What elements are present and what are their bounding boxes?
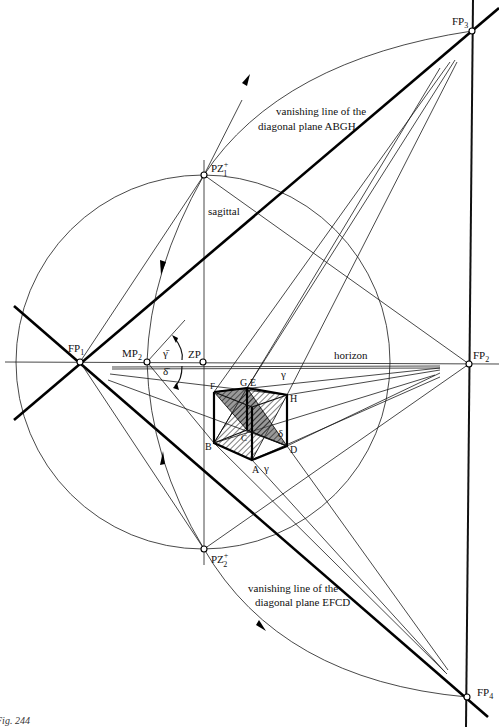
label-vertex-c: C <box>241 433 247 443</box>
arrow-up-icon <box>160 451 165 465</box>
fan-fp2-6 <box>287 373 440 446</box>
label-zp: ZP <box>188 348 201 360</box>
figure-caption: Fig. 244 <box>0 715 30 726</box>
cube-to-fp4-3 <box>214 443 447 674</box>
label-vertex-d: D <box>290 444 297 455</box>
arc-fp1-to-fp3 <box>204 31 472 175</box>
point-fp3 <box>469 28 475 34</box>
point-pz1 <box>201 172 207 178</box>
fan-fp2-2 <box>112 368 440 369</box>
label-vertex-b: B <box>205 441 212 452</box>
vanishing-line-efcd <box>14 306 488 717</box>
point-fp2 <box>466 361 472 367</box>
label-gamma-top: γ <box>280 368 286 380</box>
label-vertex-g: G <box>240 377 247 388</box>
label-gamma-bottom: γ <box>263 462 269 474</box>
arc-pz1-to-mp2 <box>147 175 204 362</box>
pz1-to-fp1 <box>80 175 204 362</box>
annotation-efcd-line2: diagonal plane EFCD <box>255 596 350 608</box>
cube-to-fp4-1 <box>252 460 445 672</box>
arrow-down-icon <box>160 260 166 275</box>
point-pz2 <box>201 546 207 552</box>
label-horizon: horizon <box>334 349 368 361</box>
label-pz2: PZ+2 <box>211 551 229 569</box>
fan-fp2-1 <box>112 366 440 367</box>
label-sagittal: sagittal <box>208 205 240 217</box>
arc-pz2-to-fp4 <box>204 549 467 697</box>
label-delta-cube: δ <box>278 427 283 439</box>
label-fp3: FP3 <box>452 15 468 30</box>
perspective-construction-diagram: FP1 MP2 ZP FP2 FP3 FP4 PZ+1 PZ+2 sagitta… <box>0 0 499 727</box>
arc-mp2-to-pz2 <box>147 362 204 549</box>
point-mp2 <box>144 359 150 365</box>
annotation-abgh-line2: diagonal plane ABGH <box>258 120 356 132</box>
point-fp1 <box>77 359 83 365</box>
vanishing-line-abgh <box>14 8 499 420</box>
fan-fp2-4 <box>287 370 440 395</box>
arrow-up-right-icon <box>242 74 250 86</box>
label-gamma-bar: γ̄ <box>162 347 170 359</box>
point-zp <box>200 359 206 365</box>
label-fp2: FP2 <box>473 349 489 364</box>
point-fp4 <box>464 694 470 700</box>
annotation-efcd-line1: vanishing line of the <box>248 582 338 594</box>
annotation-abgh-line1: vanishing line of the <box>276 105 366 117</box>
delta-arrow-icon <box>173 383 179 390</box>
label-mp2: MP2 <box>122 347 142 362</box>
label-vertex-e: E <box>250 377 256 388</box>
label-vertex-f: F <box>210 381 215 391</box>
cube-to-fp4-2 <box>287 446 448 670</box>
label-vertex-a: A <box>252 464 260 475</box>
label-fp4: FP4 <box>477 686 493 701</box>
label-vertex-h: H <box>290 393 297 404</box>
pz1-to-fp2 <box>204 175 469 364</box>
